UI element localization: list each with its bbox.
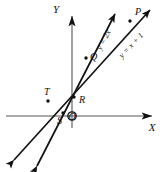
point-r-dot bbox=[72, 95, 75, 98]
equation-label-y-x-plus-1: y = x + 1 bbox=[116, 31, 145, 61]
coordinate-plane-svg: Y X O P Q R S T y = 2x y = x + 1 bbox=[0, 0, 164, 172]
y-axis-label: Y bbox=[53, 3, 61, 15]
equation-label-y-2x: y = 2x bbox=[94, 28, 113, 52]
point-r-label: R bbox=[78, 94, 85, 105]
point-t-label: T bbox=[44, 86, 51, 97]
point-t-dot bbox=[46, 99, 49, 102]
point-p-dot bbox=[128, 19, 131, 22]
point-s-label: S bbox=[57, 115, 62, 126]
x-axis-label: X bbox=[148, 121, 157, 133]
line-y-x-plus-1 bbox=[14, 10, 150, 160]
origin-label: O bbox=[68, 111, 75, 122]
point-p-label: P bbox=[134, 6, 141, 17]
point-q-dot bbox=[84, 56, 87, 59]
point-q-label: Q bbox=[90, 51, 98, 62]
geometry-figure: Y X O P Q R S T y = 2x y = x + 1 bbox=[0, 0, 164, 172]
